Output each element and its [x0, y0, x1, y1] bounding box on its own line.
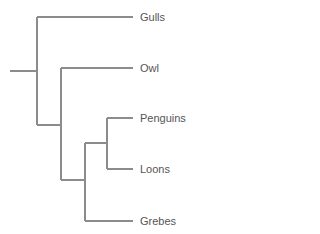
taxon-label-gulls: Gulls	[140, 11, 165, 23]
taxon-label-owl: Owl	[140, 62, 159, 74]
taxon-label-loons: Loons	[140, 163, 170, 175]
taxon-label-penguins: Penguins	[140, 112, 186, 124]
taxon-label-grebes: Grebes	[140, 215, 176, 227]
